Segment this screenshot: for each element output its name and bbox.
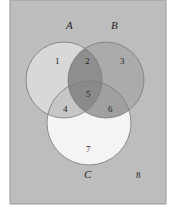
region-label-5: 5 xyxy=(86,89,91,99)
region-label-1: 1 xyxy=(55,56,60,66)
region-label-8: 8 xyxy=(136,170,141,180)
set-a-label: A xyxy=(65,19,73,31)
region-label-2: 2 xyxy=(85,56,90,66)
set-c-label: C xyxy=(84,168,92,180)
region-label-7: 7 xyxy=(86,144,91,154)
region-label-3: 3 xyxy=(120,56,125,66)
region-label-4: 4 xyxy=(63,104,68,114)
region-label-6: 6 xyxy=(108,104,113,114)
venn-diagram: A B C 1 2 3 4 5 6 7 8 xyxy=(0,0,169,210)
set-b-label: B xyxy=(111,19,118,31)
